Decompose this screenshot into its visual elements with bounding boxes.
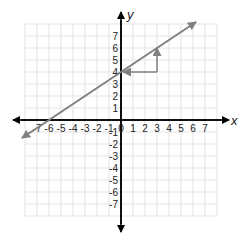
x-tick-label: -4	[69, 123, 78, 134]
x-tick-labels: -7-6-5-4-3-2-101234567	[33, 123, 209, 134]
y-tick-label: 7	[112, 31, 118, 42]
y-tick-label: 6	[112, 43, 118, 54]
y-tick-label: -3	[109, 151, 118, 162]
y-tick-label: -5	[109, 175, 118, 186]
x-tick-label: 1	[130, 123, 136, 134]
x-tick-label: 3	[154, 123, 160, 134]
x-tick-label: 0	[118, 123, 124, 134]
y-tick-label: -1	[109, 127, 118, 138]
x-tick-label: -5	[57, 123, 66, 134]
graph-svg: -7-6-5-4-3-2-101234567 -7-6-5-4-3-2-1123…	[0, 0, 246, 236]
y-tick-label: 5	[112, 55, 118, 66]
y-tick-label: -4	[109, 163, 118, 174]
y-tick-label: -6	[109, 187, 118, 198]
y-tick-label: 3	[112, 79, 118, 90]
x-axis-label: x	[230, 113, 238, 128]
y-tick-label: 2	[112, 91, 118, 102]
x-tick-label: 4	[166, 123, 172, 134]
x-tick-label: -6	[45, 123, 54, 134]
y-axis-label: y	[126, 7, 135, 22]
x-tick-label: 2	[142, 123, 148, 134]
y-tick-label: -7	[109, 199, 118, 210]
x-tick-label: -2	[93, 123, 102, 134]
coordinate-plane: -7-6-5-4-3-2-101234567 -7-6-5-4-3-2-1123…	[0, 0, 246, 236]
x-tick-label: 7	[202, 123, 208, 134]
y-tick-label: 1	[112, 103, 118, 114]
y-tick-label: -2	[109, 139, 118, 150]
x-tick-label: 6	[190, 123, 196, 134]
x-tick-label: -3	[81, 123, 90, 134]
x-tick-label: 5	[178, 123, 184, 134]
